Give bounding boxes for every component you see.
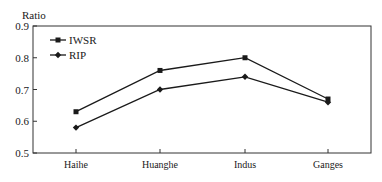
x-axis: HaiheHuangheIndusGanges [64,149,343,170]
x-tick-label: Haihe [64,159,88,170]
square-marker-icon [74,109,79,114]
y-tick-label: 0.5 [15,147,29,159]
x-tick-label: Indus [234,159,256,170]
y-axis-label: Ratio [22,9,46,21]
legend-item-rip: RIP [50,49,86,61]
y-tick-label: 0.8 [15,52,29,64]
legend-label: RIP [69,49,86,61]
diamond-marker-icon [242,74,248,80]
legend: IWSRRIP [50,34,97,61]
y-axis: 0.50.60.70.80.9 [15,20,37,159]
series-line [76,77,328,128]
diamond-marker-icon [73,124,79,130]
legend-diamond-icon [55,52,61,58]
series-lines [73,55,331,131]
y-tick-label: 0.9 [15,20,29,32]
legend-label: IWSR [69,34,97,46]
square-marker-icon [243,55,248,60]
legend-item-iwsr: IWSR [50,34,97,46]
x-tick-label: Ganges [313,159,343,170]
series-rip [73,74,331,131]
x-tick-label: Huanghe [142,159,179,170]
line-chart: 0.50.60.70.80.9 HaiheHuangheIndusGanges … [0,0,382,182]
series-iwsr [74,55,331,114]
y-tick-label: 0.6 [15,115,29,127]
legend-square-icon [56,38,61,43]
y-tick-label: 0.7 [15,84,29,96]
square-marker-icon [158,68,163,73]
series-line [76,58,328,112]
diamond-marker-icon [157,86,163,92]
